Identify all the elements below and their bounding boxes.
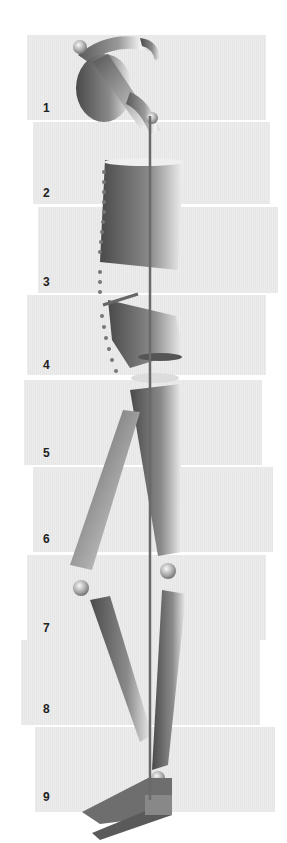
- mannequin-figure: [0, 0, 287, 843]
- segment-number: 6: [43, 532, 50, 546]
- torso: [100, 158, 184, 383]
- segment-number: 9: [43, 790, 50, 804]
- segment-number: 7: [43, 621, 50, 635]
- foot-wedge: [82, 778, 172, 840]
- segment-number: 5: [43, 446, 50, 460]
- segment-number: 3: [43, 275, 50, 289]
- legs: [70, 384, 186, 785]
- head: [73, 36, 160, 134]
- segment-number: 4: [43, 358, 50, 372]
- segment-number: 2: [43, 186, 50, 200]
- segment-number: 1: [43, 101, 50, 115]
- segment-number: 8: [43, 702, 50, 716]
